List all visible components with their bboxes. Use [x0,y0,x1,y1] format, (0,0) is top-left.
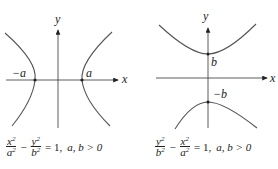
right-equation: y2 b2 − x2 a2 = 1, a, b > 0 [154,136,251,157]
left-equation: x2 a2 − y2 b2 = 1, a, b > 0 [5,136,102,157]
vertex-left-label: −a [12,66,26,80]
left-diagram: y x −a a [5,12,128,128]
right-diagram: y x b −b [156,9,276,129]
vertex-top-label: b [211,55,217,69]
fraction: y2 b2 [155,136,165,157]
upper-branch [159,24,256,54]
fraction: y2 b2 [31,136,41,157]
vertex-right-label: a [86,66,92,80]
y-axis-label: y [202,9,209,23]
vertex-top-point [206,52,209,55]
fraction: x2 a2 [180,136,190,157]
lower-branch [175,102,257,129]
vertex-right-point [80,78,83,81]
vertex-left-point [33,78,36,81]
x-axis-label: x [269,71,276,85]
vertex-bottom-point [206,100,209,103]
x-axis-label: x [121,72,128,86]
fraction: x2 a2 [6,136,16,157]
y-axis-label: y [54,12,61,26]
vertex-bottom-label: −b [213,87,227,101]
